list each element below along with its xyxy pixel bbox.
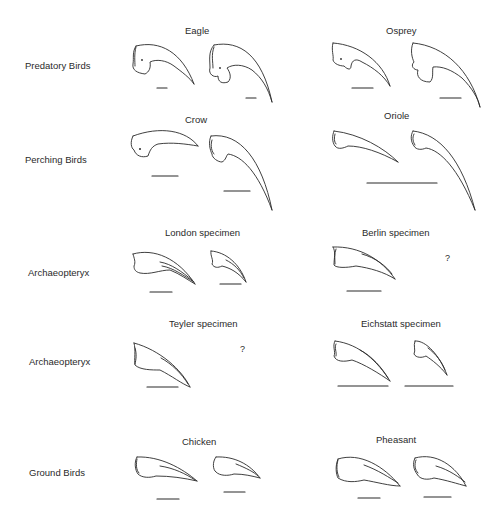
claw-london-2 — [211, 251, 246, 282]
claw-pheasant-1 — [336, 457, 400, 486]
claw-eagle-1 — [133, 45, 194, 84]
claw-eichstatt-1 — [334, 341, 390, 381]
claw-eichstatt-2 — [414, 341, 447, 375]
claw-oriole-2 — [411, 131, 475, 210]
claw-chicken-2 — [213, 457, 260, 478]
claw-pheasant-2 — [414, 457, 466, 486]
claw-chicken-1 — [135, 457, 197, 481]
claw-osprey-1 — [332, 43, 390, 86]
claw-crow-2 — [209, 136, 272, 210]
claw-oriole-1 — [333, 131, 398, 162]
claw-eagle-2 — [210, 44, 272, 102]
claw-teyler — [134, 343, 190, 387]
claw-comparison-figure — [0, 0, 500, 528]
claw-london-1 — [133, 252, 195, 284]
claw-crow-1 — [131, 131, 198, 157]
claw-berlin — [333, 247, 395, 279]
